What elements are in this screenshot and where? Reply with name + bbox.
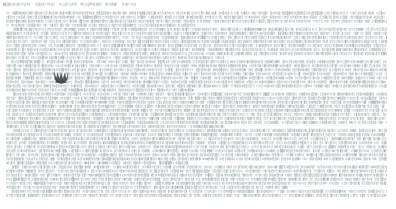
document-body-text[interactable] [6,10,387,198]
header-title-line-render [2,1,136,8]
mouse-cursor [51,69,72,86]
mouse-cursor-icon [51,69,72,86]
document-body-text-render [6,10,387,198]
header-title-line [2,1,136,8]
document-page [0,0,396,209]
